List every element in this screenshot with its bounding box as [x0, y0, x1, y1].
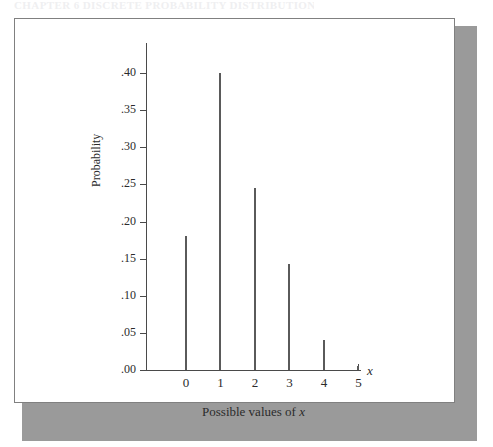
x-axis-tick-label: 1 [215, 375, 227, 391]
bar [357, 366, 359, 370]
y-axis-tick: .00 [140, 370, 147, 371]
y-axis-line [146, 43, 147, 371]
y-axis-tick-label: .15 [121, 251, 136, 266]
y-axis-tick: .20 [140, 222, 147, 223]
x-axis-tick-label: 2 [249, 375, 261, 391]
x-axis-title: Possible values of x [146, 404, 361, 420]
bar [185, 236, 187, 370]
y-axis-tick: .10 [140, 296, 147, 297]
x-axis-end-variable-label: x [367, 363, 373, 379]
x-axis-tick-label: 0 [180, 375, 192, 391]
y-axis-tick-label: .40 [121, 65, 136, 80]
x-axis-tick-label: 4 [318, 375, 330, 391]
bar [254, 188, 256, 370]
bar [288, 264, 290, 370]
page-header-text: CHAPTER 6 DISCRETE PROBABILITY DISTRIBUT… [14, 0, 314, 11]
bar [219, 73, 221, 370]
y-axis-tick: .25 [140, 184, 147, 185]
y-axis-tick: .30 [140, 147, 147, 148]
plot-area: .00.05.10.15.20.25.30.35.40 012345 Proba… [15, 19, 454, 402]
y-axis-tick: .35 [140, 110, 147, 111]
y-axis-tick-label: .30 [121, 139, 136, 154]
bar [323, 340, 325, 370]
y-axis-tick-label: .25 [121, 176, 136, 191]
y-axis-tick-label: .00 [121, 362, 136, 377]
x-axis-tick-label: 3 [284, 375, 296, 391]
y-axis-tick: .05 [140, 333, 147, 334]
y-axis-tick-label: .35 [121, 102, 136, 117]
y-axis-tick-label: .05 [121, 325, 136, 340]
x-axis-title-prefix: Possible values of [202, 404, 299, 419]
y-axis-tick-label: .10 [121, 288, 136, 303]
x-axis-tick-label: 5 [353, 375, 365, 391]
figure-frame: .00.05.10.15.20.25.30.35.40 012345 Proba… [14, 18, 455, 403]
y-axis-tick: .15 [140, 259, 147, 260]
y-axis-tick-label: .20 [121, 214, 136, 229]
y-axis-title: Probability [89, 134, 104, 187]
y-axis-tick: .40 [140, 73, 147, 74]
x-axis-title-variable: x [299, 404, 305, 419]
